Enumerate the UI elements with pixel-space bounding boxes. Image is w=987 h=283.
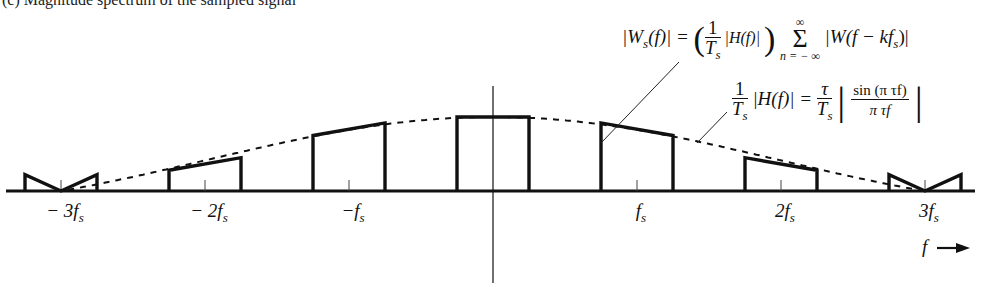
- ws-equation: |Ws(f)| = (1Ts |H(f)| ) ∞Σn = − ∞ |W(f −…: [622, 16, 909, 62]
- envelope-dashed-curve: [68, 117, 915, 190]
- sinc-fraction: sin (π τf)π τf: [851, 81, 909, 120]
- f-arrow-head-icon: [956, 243, 970, 253]
- envelope-pointer-line: [697, 112, 727, 143]
- f-axis-label: f: [922, 236, 927, 258]
- tick-label: − 3fs: [46, 200, 83, 222]
- ws-rhs: |W(f − kf: [825, 26, 894, 47]
- ws-fraction: 1Ts: [705, 19, 721, 60]
- tau-fraction: τTs: [817, 80, 833, 121]
- tick-label: − 2fs: [190, 200, 227, 222]
- tick-label: 3fs: [919, 200, 939, 222]
- tick-label: fs: [636, 200, 646, 222]
- h-equation: 1Ts |H(f)| = τTs |sin (π τf)π τf|: [732, 80, 923, 121]
- summation: ∞Σn = − ∞: [780, 16, 820, 62]
- tick-label: −fs: [341, 200, 364, 222]
- h-lhs: |H(f)| =: [752, 88, 816, 109]
- tick-label: 2fs: [775, 200, 795, 222]
- ws-lhs: |W: [622, 26, 643, 47]
